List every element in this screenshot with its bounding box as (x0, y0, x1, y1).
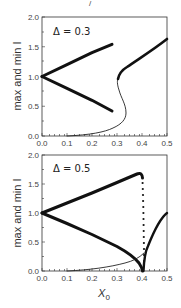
min-branch (42, 77, 112, 112)
x-tick-label: 0.2 (86, 139, 98, 148)
steady-state-right (144, 213, 168, 271)
curves (42, 39, 167, 136)
delta-annotation: Δ = 0.3 (53, 26, 90, 37)
y-tick-label: 1.5 (28, 180, 40, 189)
panel-top: 0.0 0.5 1.0 1.5 2.0 0.0 0.1 0.2 0.3 0.4 … (11, 13, 173, 148)
x-tick-label: 0.1 (61, 274, 73, 283)
max-branch (42, 173, 143, 213)
max-branch (42, 44, 112, 76)
x-tick-label: 0.5 (161, 139, 173, 148)
delta-annotation: Δ = 0.5 (53, 163, 90, 174)
y-axis-title: max and min I (11, 41, 23, 110)
x-tick-label: 0.3 (111, 139, 123, 148)
x-axis-title: X0 (97, 287, 110, 302)
x-tick-label: 0.3 (111, 274, 123, 283)
x-tick-label: 0.5 (161, 274, 173, 283)
y-tick-label: 2.0 (28, 151, 40, 160)
x-ticks (42, 133, 167, 136)
steady-state-upper (118, 39, 167, 79)
x-tick-label: 0.2 (86, 274, 98, 283)
x-tick-label: 0.0 (36, 274, 48, 283)
x-tick-label: 0.0 (36, 139, 48, 148)
y-tick-label: 0.5 (28, 102, 40, 111)
y-tick-label: 0.5 (28, 238, 40, 247)
x-tick-label: 0.4 (136, 274, 148, 283)
y-tick-label: 1.5 (28, 43, 40, 52)
y-tick-label: 1.0 (28, 209, 40, 218)
y-tick-label: 1.0 (28, 73, 40, 82)
y-tick-label: 2.0 (28, 13, 40, 22)
top-glyph: / (89, 0, 92, 8)
x-ticks (42, 268, 167, 271)
x-tick-label: 0.1 (61, 139, 73, 148)
panel-bottom: 0.0 0.5 1.0 1.5 2.0 0.0 0.1 0.2 0.3 0.4 … (11, 151, 173, 302)
figure: / 0.0 0.5 1.0 1.5 2.0 0.0 0.1 (0, 0, 181, 308)
x-tick-label: 0.4 (136, 139, 148, 148)
curves (42, 173, 167, 271)
max-branch-dotted (142, 182, 146, 262)
y-axis-title: max and min I (11, 178, 23, 247)
steady-state-thin (67, 79, 126, 136)
